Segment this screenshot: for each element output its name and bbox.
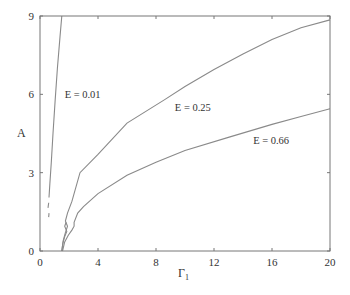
curve-label: E = 0.66 — [253, 135, 289, 146]
curve-e-0-66 — [63, 109, 331, 251]
curve-label: E = 0.25 — [175, 102, 211, 113]
line-chart: 0481216200369 E = 0.01E = 0.25E = 0.66 A… — [0, 0, 350, 295]
x-tick-label: 16 — [267, 256, 279, 268]
curve-e-0-01-lower-branch — [62, 222, 67, 251]
axes-frame — [40, 16, 330, 251]
curve-labels: E = 0.01E = 0.25E = 0.66 — [65, 89, 289, 146]
y-tick-label: 6 — [29, 88, 35, 100]
x-tick-label: 8 — [153, 256, 159, 268]
x-tick-label: 20 — [325, 256, 337, 268]
axis-ticks: 0481216200369 — [29, 10, 337, 268]
x-tick-label: 0 — [37, 256, 43, 268]
x-tick-label: 12 — [209, 256, 220, 268]
curve-e-0-25 — [62, 20, 330, 251]
curve-e-0-01 — [48, 203, 49, 208]
y-tick-label: 9 — [29, 10, 35, 22]
curve-e-0-01 — [49, 16, 62, 198]
x-tick-label: 4 — [95, 256, 101, 268]
plot-area — [48, 16, 330, 251]
y-tick-label: 0 — [29, 245, 35, 257]
y-axis-label: A — [17, 126, 26, 140]
x-axis-label: Γ1 — [178, 266, 189, 282]
curve-label: E = 0.01 — [65, 89, 101, 100]
y-tick-label: 3 — [29, 167, 35, 179]
